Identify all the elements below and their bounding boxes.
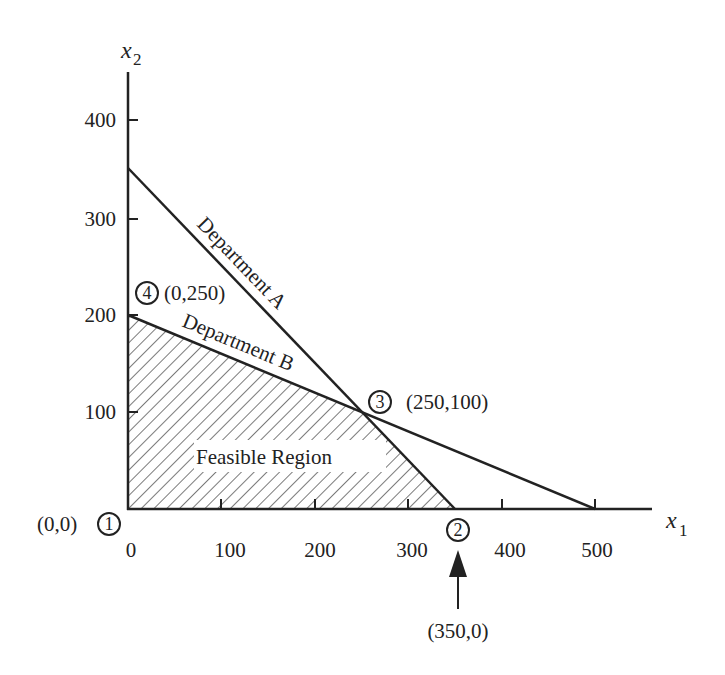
y-axis-label: x 2 — [120, 37, 142, 69]
y-tick-label: 200 — [85, 303, 117, 327]
y-tick-label: 400 — [85, 108, 117, 132]
svg-text:2: 2 — [454, 520, 463, 540]
lp-graph: 100 200 300 400 0 100 200 300 400 500 x … — [0, 0, 725, 675]
svg-text:4: 4 — [143, 283, 152, 303]
svg-text:2: 2 — [133, 50, 142, 69]
corner-point-2: 2 (350,0) — [427, 519, 488, 643]
svg-text:1: 1 — [679, 521, 688, 540]
x-axis-label: x 1 — [665, 507, 688, 540]
x-tick-label: 500 — [581, 538, 613, 562]
svg-text:(250,100): (250,100) — [406, 390, 488, 414]
svg-text:x: x — [120, 37, 132, 63]
corner-point-4: 4 (0,250) — [136, 281, 225, 305]
svg-text:x: x — [665, 507, 677, 533]
x-tick-label: 300 — [396, 538, 428, 562]
y-tick-label: 300 — [85, 207, 117, 231]
y-tick-label: 100 — [85, 400, 117, 424]
x-tick-label: 200 — [304, 538, 336, 562]
svg-text:(0,250): (0,250) — [164, 281, 225, 305]
svg-text:(350,0): (350,0) — [427, 619, 488, 643]
corner-point-1: (0,0) 1 — [37, 512, 120, 536]
svg-text:(0,0): (0,0) — [37, 512, 77, 536]
x-tick-label: 0 — [126, 538, 137, 562]
x-tick-label: 400 — [494, 538, 526, 562]
feasible-region-label: Feasible Region — [196, 445, 332, 469]
arrow-up-icon — [449, 550, 467, 577]
corner-point-3: 3 (250,100) — [369, 390, 488, 414]
x-tick-label: 100 — [214, 538, 246, 562]
svg-text:3: 3 — [376, 392, 385, 412]
svg-text:1: 1 — [105, 514, 114, 534]
